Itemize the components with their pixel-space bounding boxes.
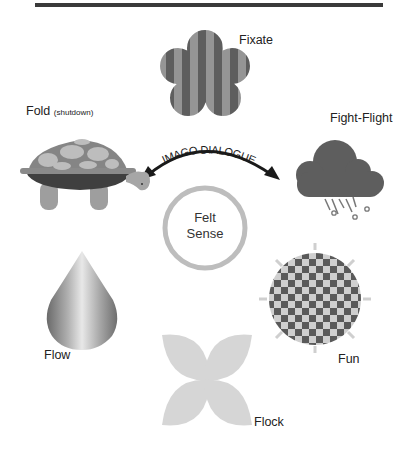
fold-label: Fold (26, 104, 50, 118)
four-petal-icon (162, 335, 252, 426)
storm-cloud-icon (296, 140, 384, 219)
imago-dialogue-label: IMAGO DIALOGUE (160, 143, 258, 166)
svg-text:IMAGO DIALOGUE: IMAGO DIALOGUE (160, 143, 258, 166)
water-drop-icon (47, 251, 118, 350)
node-label-flock: Flock (254, 415, 284, 429)
arrowhead-right-icon (264, 166, 280, 180)
felt-sense-line1: Felt (165, 210, 245, 226)
dialogue-arrow (148, 152, 272, 176)
checkered-sun-icon (259, 243, 371, 353)
node-label-fun: Fun (338, 352, 360, 366)
node-label-flow: Flow (44, 348, 70, 362)
node-label-fold: Fold (shutdown) (26, 104, 93, 118)
fold-sublabel: (shutdown) (54, 108, 94, 117)
turtle-icon (20, 139, 150, 210)
node-label-fixate: Fixate (239, 33, 273, 47)
felt-sense-line2: Sense (165, 226, 245, 242)
felt-sense-label: Felt Sense (165, 210, 245, 242)
header-rule (35, 3, 383, 7)
node-label-fight-flight: Fight-Flight (330, 111, 393, 125)
arrowhead-left-icon (140, 166, 156, 180)
